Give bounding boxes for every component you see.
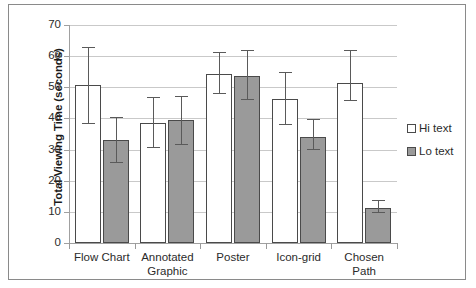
legend-item-hi-text[interactable]: Hi text xyxy=(407,122,476,134)
bar-lo-text[interactable] xyxy=(300,137,326,243)
y-tick-label-30: 30 xyxy=(37,144,61,156)
error-bar-cap-bottom xyxy=(241,99,254,100)
x-axis-separator xyxy=(69,243,70,249)
x-tick-label-line: Graphic xyxy=(129,264,207,278)
error-bar-cap-bottom xyxy=(344,100,357,101)
y-tick-label-40: 40 xyxy=(37,112,61,124)
chart-legend: Hi textLo text xyxy=(407,122,476,168)
x-axis-separator xyxy=(135,243,136,249)
y-tick-mark-60 xyxy=(64,56,69,57)
y-tick-label-0: 0 xyxy=(37,237,61,249)
error-bar-cap-top xyxy=(279,72,292,73)
error-bar-line xyxy=(116,118,117,163)
legend-label: Lo text xyxy=(419,145,454,157)
plot-area xyxy=(69,25,397,243)
x-tick-label-line: Path xyxy=(325,264,403,278)
bar-hi-text[interactable] xyxy=(206,74,232,243)
y-tick-mark-30 xyxy=(64,150,69,151)
y-tick-label-10: 10 xyxy=(37,206,61,218)
x-axis-separator xyxy=(397,243,398,249)
error-bar-cap-top xyxy=(307,119,320,120)
error-bar-line xyxy=(88,48,89,124)
x-axis-separator xyxy=(200,243,201,249)
error-bar-line xyxy=(313,120,314,150)
error-bar-cap-top xyxy=(175,96,188,97)
y-axis-tick-labels: 010203040506070 xyxy=(33,5,61,288)
error-bar-cap-bottom xyxy=(147,147,160,148)
error-bar-cap-top xyxy=(213,52,226,53)
x-axis-separator xyxy=(331,243,332,249)
y-tick-label-70: 70 xyxy=(37,19,61,31)
error-bar-line xyxy=(181,97,182,145)
error-bar-cap-bottom xyxy=(307,149,320,150)
x-tick-label-chosen-path: ChosenPath xyxy=(325,250,403,278)
error-bar-line xyxy=(247,51,248,100)
legend-item-lo-text[interactable]: Lo text xyxy=(407,145,476,157)
filled-square-swatch xyxy=(407,147,416,156)
y-tick-mark-70 xyxy=(64,25,69,26)
x-axis-separator xyxy=(266,243,267,249)
bar-group xyxy=(69,25,135,243)
open-square-swatch xyxy=(407,124,416,133)
error-bar-line xyxy=(219,53,220,94)
bar-group xyxy=(266,25,332,243)
error-bar-cap-top xyxy=(241,50,254,51)
x-axis-line xyxy=(69,243,398,244)
error-bar-cap-bottom xyxy=(279,124,292,125)
error-bar-cap-top xyxy=(110,117,123,118)
y-tick-mark-20 xyxy=(64,181,69,182)
error-bar-cap-bottom xyxy=(372,212,385,213)
y-tick-mark-50 xyxy=(64,87,69,88)
error-bar-cap-bottom xyxy=(82,123,95,124)
figure-frame: Total Viewing Time (seconds) 01020304050… xyxy=(8,4,466,280)
error-bar-cap-top xyxy=(372,200,385,201)
x-tick-label-line: Chosen xyxy=(325,250,403,264)
error-bar-line xyxy=(350,51,351,101)
error-bar-line xyxy=(153,98,154,148)
error-bar-cap-bottom xyxy=(213,93,226,94)
error-bar-cap-top xyxy=(344,50,357,51)
error-bar-cap-top xyxy=(82,47,95,48)
error-bar-cap-bottom xyxy=(110,162,123,163)
bar-group xyxy=(200,25,266,243)
y-tick-label-50: 50 xyxy=(37,81,61,93)
bar-lo-text[interactable] xyxy=(234,76,260,243)
error-bar-cap-bottom xyxy=(175,144,188,145)
bar-group xyxy=(331,25,397,243)
bar-hi-text[interactable] xyxy=(337,83,363,243)
legend-label: Hi text xyxy=(419,122,452,134)
y-tick-mark-10 xyxy=(64,212,69,213)
error-bar-line xyxy=(285,73,286,124)
y-tick-label-60: 60 xyxy=(37,50,61,62)
y-tick-mark-40 xyxy=(64,118,69,119)
y-axis-line xyxy=(69,25,70,244)
y-tick-label-20: 20 xyxy=(37,175,61,187)
error-bar-cap-top xyxy=(147,97,160,98)
bar-group xyxy=(135,25,201,243)
